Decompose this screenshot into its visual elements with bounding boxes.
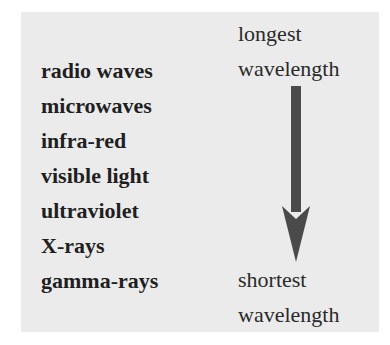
shortest-wavelength-label: shortest wavelength <box>238 262 339 332</box>
list-item-ultraviolet: ultraviolet <box>41 193 158 228</box>
list-item-gamma-rays: gamma-rays <box>41 263 158 298</box>
list-item-radio-waves: radio waves <box>41 53 158 88</box>
list-item-infra-red: infra-red <box>41 123 158 158</box>
list-item-visible-light: visible light <box>41 158 158 193</box>
label-line: wavelength <box>238 297 339 332</box>
longest-wavelength-label: longest wavelength <box>238 16 339 86</box>
down-arrow-icon <box>280 86 312 262</box>
spectrum-list: radio waves microwaves infra-red visible… <box>41 53 158 298</box>
list-item-x-rays: X-rays <box>41 228 158 263</box>
label-line: wavelength <box>238 51 339 86</box>
label-line: longest <box>238 16 339 51</box>
list-item-microwaves: microwaves <box>41 88 158 123</box>
label-line: shortest <box>238 262 339 297</box>
